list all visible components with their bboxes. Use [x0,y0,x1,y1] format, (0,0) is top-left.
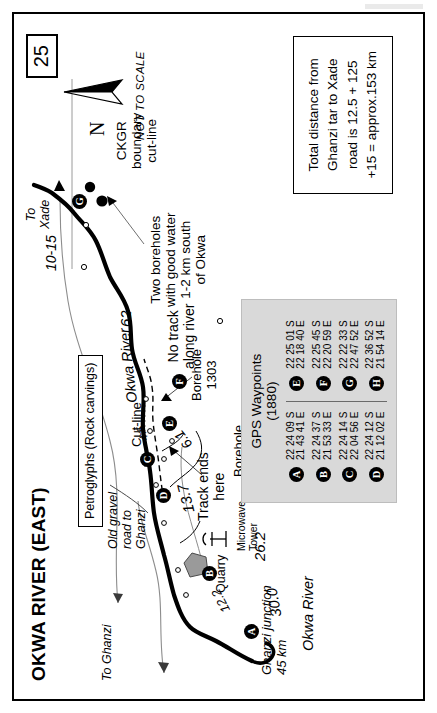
page-title: OKWA RIVER (EAST) [28,487,49,681]
distance-62: 62 [118,310,135,327]
km-tick [176,568,181,573]
distance-26-2: 26.2 [252,532,269,561]
gps-column-right: E 22 25 01 S22 18 40 E F 22 25 45 S22 20… [286,310,387,401]
gps-lat-g: 22 22 33 S [338,320,349,368]
gps-waypoints-table: GPS Waypoints (1880) A 22 24 09 S21 43 4… [241,299,397,503]
leader-two-boreholes [110,199,144,244]
gps-lat-f: 22 25 45 S [311,320,322,368]
gps-lat-d: 22 24 12 S [364,412,375,460]
map-waypoint-f[interactable]: F [172,374,187,389]
not-to-scale-label: NOT TO SCALE [134,51,146,140]
gps-lat-e: 22 25 01 S [285,320,296,368]
km-tick [144,397,149,402]
distance-note-line-2: Ghanzi tar to Xade [323,51,343,179]
km-tick [162,457,167,462]
gps-coord-d: 22 24 12 S21 12 02 E [365,412,387,460]
gps-table-title: GPS Waypoints (1880) [249,310,280,492]
gps-bullet-e: E [289,376,304,391]
gps-bullet-f: F [316,376,331,391]
label-to-xade: To Xade [24,200,52,229]
leader-arrow [169,446,179,456]
gps-lat-a: 22 24 09 S [285,412,296,460]
label-no-track-along-river: No track along river [166,304,197,369]
gps-title-line-2: (1880) [264,310,279,492]
gps-lon-a: 21 43 41 E [295,412,306,460]
km-tick [154,483,159,488]
label-okwa-river-west: Okwa River [300,576,316,651]
gps-coord-a: 22 24 09 S21 43 41 E [286,412,308,460]
petroglyphs-note-text: Petroglyphs (Rock carvings) [83,363,97,519]
petroglyphs-note-box: Petroglyphs (Rock carvings) [78,355,103,527]
map-border-frame: OKWA RIVER (EAST) 25 To Ghanzi To Xade G… [12,12,425,701]
gps-coord-f: 22 25 45 S22 20 59 E [312,320,334,368]
map-waypoint-g[interactable]: G [72,194,87,209]
gps-lon-h: 21 54 14 E [375,320,386,368]
arrow-to-xade [54,180,65,191]
gps-row-c[interactable]: C 22 24 14 S22 04 56 E [339,412,361,482]
borehole-dot [96,195,107,206]
gps-coord-g: 22 22 33 S22 47 52 E [339,320,361,368]
leader-arrow [107,196,117,206]
rotated-map-canvas: OKWA RIVER (EAST) 25 To Ghanzi To Xade G… [8,8,429,705]
gps-lon-f: 22 20 59 E [322,320,333,368]
gps-row-f[interactable]: F 22 25 45 S22 20 59 E [312,320,334,390]
km-tick [162,521,167,526]
gps-lon-g: 22 47 52 E [349,320,360,368]
km-tick [81,264,86,269]
map-waypoint-d[interactable]: D [156,488,171,503]
tributary-3 [180,521,200,543]
gps-row-d[interactable]: D 22 24 12 S21 12 02 E [365,412,387,482]
gps-coord-h: 22 36 52 S21 54 14 E [365,320,387,368]
arrow-to-ghanzi [113,593,123,603]
gps-bullet-c: C [342,467,357,482]
map-waypoint-b[interactable]: B [202,566,217,581]
km-tick [83,222,88,227]
map-waypoint-e[interactable]: E [162,416,177,431]
distance-note-line-1: Total distance from [304,51,324,179]
gps-lat-h: 22 36 52 S [364,320,375,368]
gps-row-a[interactable]: A 22 24 09 S21 43 41 E [286,412,308,482]
label-two-boreholes: Two boreholes with good water 1-2 km sou… [148,212,208,307]
gps-lat-c: 22 24 14 S [338,412,349,460]
gps-lon-e: 22 18 40 E [295,320,306,368]
label-old-gravel-road: Old gravel road to Ghanzi [106,492,148,549]
gps-coord-b: 22 24 37 S21 53 33 E [312,412,334,460]
borehole-dot [85,182,95,192]
gps-lon-d: 21 12 02 E [375,412,386,460]
distance-note-line-4: +15 = approx.153 km [362,51,382,179]
gps-row-g[interactable]: G 22 22 33 S22 47 52 E [339,320,361,390]
map-waypoint-a[interactable]: A [244,624,259,639]
gps-column-left: A 22 24 09 S21 43 41 E B 22 24 37 S21 53… [286,402,387,492]
gps-lon-b: 21 53 33 E [322,412,333,460]
gps-lon-c: 22 04 56 E [349,412,360,460]
microwave-tower-icon [203,531,226,547]
gps-lat-b: 22 24 37 S [311,412,322,460]
gps-row-e[interactable]: E 22 25 01 S22 18 40 E [286,320,308,390]
label-to-ghanzi: To Ghanzi [100,624,114,681]
compass-needle-hollow [64,92,122,104]
compass-rose: N NOT TO SCALE [56,48,160,138]
distance-note-line-3: road is 12.5 + 125 [343,51,363,179]
label-track-ends-here: Track ends here [196,452,227,521]
distance-10-15: 10-15 [44,235,60,271]
gps-row-h[interactable]: H 22 36 52 S21 54 14 E [365,320,387,390]
arrow-ghanzi-junction [158,662,169,673]
map-waypoint-c[interactable]: C [140,452,155,467]
gps-row-b[interactable]: B 22 24 37 S21 53 33 E [312,412,334,482]
gps-coord-e: 22 25 01 S22 18 40 E [286,320,308,368]
total-distance-box: Total distance from Ghanzi tar to Xade r… [293,36,393,194]
gps-bullet-b: B [316,467,331,482]
km-tick [184,593,189,598]
gps-bullet-a: A [289,467,304,482]
page-number-box: 25 [26,34,58,78]
gps-title-line-1: GPS Waypoints [249,310,264,492]
gps-bullet-h: H [369,376,384,391]
compass-needle-filled [64,80,122,92]
gps-bullet-g: G [342,376,357,391]
map-page: OKWA RIVER (EAST) 25 To Ghanzi To Xade G… [0,0,437,713]
km-tick [217,318,222,323]
compass-north-label: N [86,122,109,136]
gps-bullet-d: D [369,467,384,482]
gps-coord-c: 22 24 14 S22 04 56 E [339,412,361,460]
